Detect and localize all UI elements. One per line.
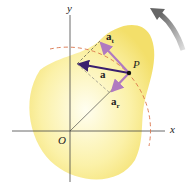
- rigid-body-acceleration-diagram: y x O P a at ar: [0, 0, 191, 195]
- point-label: P: [133, 58, 140, 70]
- y-axis-label: y: [67, 2, 72, 14]
- tangential-label: at: [106, 30, 114, 45]
- rigid-body: [29, 25, 154, 179]
- x-axis-label: x: [170, 123, 175, 135]
- rotation-arrow-icon: [160, 14, 183, 50]
- point-p: [127, 71, 131, 75]
- acceleration-label: a: [100, 68, 106, 80]
- radial-label: ar: [111, 95, 120, 110]
- diagram-graphic: [0, 0, 191, 195]
- origin-label: O: [58, 134, 66, 146]
